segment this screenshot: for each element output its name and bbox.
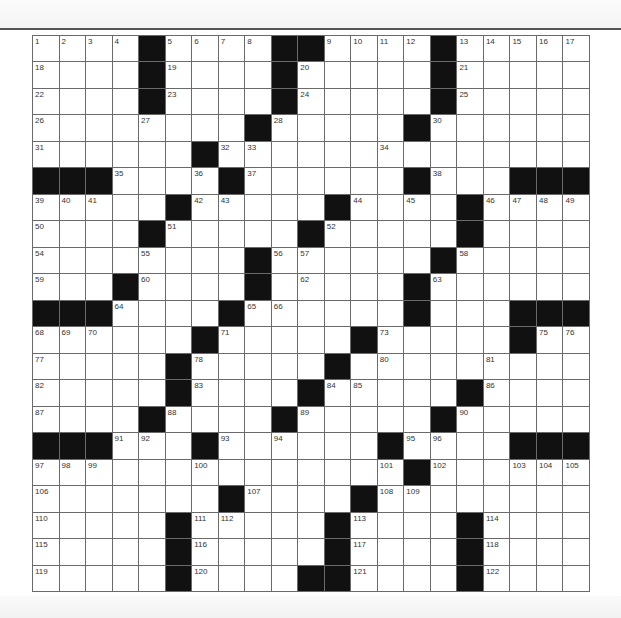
grid-cell[interactable] <box>563 566 589 591</box>
grid-cell[interactable]: 85 <box>351 380 377 405</box>
grid-cell[interactable] <box>245 195 271 220</box>
grid-cell[interactable] <box>484 460 510 485</box>
grid-cell[interactable]: 17 <box>563 36 589 61</box>
grid-cell[interactable] <box>351 301 377 326</box>
grid-cell[interactable] <box>60 566 86 591</box>
grid-cell[interactable] <box>219 274 245 299</box>
grid-cell[interactable] <box>139 354 165 379</box>
grid-cell[interactable] <box>510 248 536 273</box>
grid-cell[interactable]: 66 <box>272 301 298 326</box>
grid-cell[interactable]: 14 <box>484 36 510 61</box>
grid-cell[interactable] <box>378 62 404 87</box>
grid-cell[interactable] <box>298 327 324 352</box>
grid-cell[interactable]: 30 <box>431 115 457 140</box>
grid-cell[interactable] <box>510 486 536 511</box>
grid-cell[interactable] <box>431 486 457 511</box>
grid-cell[interactable]: 107 <box>245 486 271 511</box>
grid-cell[interactable]: 32 <box>219 142 245 167</box>
grid-cell[interactable]: 97 <box>33 460 59 485</box>
grid-cell[interactable] <box>245 433 271 458</box>
grid-cell[interactable] <box>510 142 536 167</box>
grid-cell[interactable]: 2 <box>60 36 86 61</box>
grid-cell[interactable] <box>113 115 139 140</box>
grid-cell[interactable]: 20 <box>298 62 324 87</box>
grid-cell[interactable] <box>272 327 298 352</box>
grid-cell[interactable] <box>113 248 139 273</box>
grid-cell[interactable] <box>351 248 377 273</box>
grid-cell[interactable] <box>563 407 589 432</box>
grid-cell[interactable] <box>272 274 298 299</box>
grid-cell[interactable]: 89 <box>298 407 324 432</box>
grid-cell[interactable] <box>351 89 377 114</box>
grid-cell[interactable] <box>60 115 86 140</box>
grid-cell[interactable]: 34 <box>378 142 404 167</box>
grid-cell[interactable] <box>457 274 483 299</box>
grid-cell[interactable] <box>351 142 377 167</box>
grid-cell[interactable] <box>60 221 86 246</box>
grid-cell[interactable] <box>484 142 510 167</box>
grid-cell[interactable] <box>537 380 563 405</box>
grid-cell[interactable] <box>431 566 457 591</box>
grid-cell[interactable] <box>139 142 165 167</box>
grid-cell[interactable]: 122 <box>484 566 510 591</box>
grid-cell[interactable]: 96 <box>431 433 457 458</box>
grid-cell[interactable]: 112 <box>219 513 245 538</box>
grid-cell[interactable]: 104 <box>537 460 563 485</box>
grid-cell[interactable]: 37 <box>245 168 271 193</box>
grid-cell[interactable] <box>86 248 112 273</box>
grid-cell[interactable] <box>86 407 112 432</box>
grid-cell[interactable]: 70 <box>86 327 112 352</box>
grid-cell[interactable]: 83 <box>192 380 218 405</box>
grid-cell[interactable] <box>537 539 563 564</box>
grid-cell[interactable] <box>219 115 245 140</box>
grid-cell[interactable]: 103 <box>510 460 536 485</box>
grid-cell[interactable] <box>563 380 589 405</box>
grid-cell[interactable] <box>351 168 377 193</box>
grid-cell[interactable]: 94 <box>272 433 298 458</box>
grid-cell[interactable] <box>272 142 298 167</box>
grid-cell[interactable] <box>272 380 298 405</box>
grid-cell[interactable]: 3 <box>86 36 112 61</box>
grid-cell[interactable] <box>325 142 351 167</box>
grid-cell[interactable] <box>272 513 298 538</box>
grid-cell[interactable]: 121 <box>351 566 377 591</box>
grid-cell[interactable] <box>563 274 589 299</box>
grid-cell[interactable]: 109 <box>404 486 430 511</box>
grid-cell[interactable] <box>86 142 112 167</box>
grid-cell[interactable] <box>351 407 377 432</box>
grid-cell[interactable]: 118 <box>484 539 510 564</box>
grid-cell[interactable] <box>86 62 112 87</box>
grid-cell[interactable] <box>298 513 324 538</box>
grid-cell[interactable] <box>219 89 245 114</box>
grid-cell[interactable]: 76 <box>563 327 589 352</box>
grid-cell[interactable]: 24 <box>298 89 324 114</box>
grid-cell[interactable] <box>139 566 165 591</box>
grid-cell[interactable] <box>378 407 404 432</box>
grid-cell[interactable] <box>166 115 192 140</box>
grid-cell[interactable] <box>139 380 165 405</box>
grid-cell[interactable] <box>298 301 324 326</box>
grid-cell[interactable] <box>510 539 536 564</box>
grid-cell[interactable]: 93 <box>219 433 245 458</box>
grid-cell[interactable] <box>457 460 483 485</box>
grid-cell[interactable]: 81 <box>484 354 510 379</box>
grid-cell[interactable] <box>60 380 86 405</box>
grid-cell[interactable]: 38 <box>431 168 457 193</box>
grid-cell[interactable] <box>245 327 271 352</box>
grid-cell[interactable] <box>113 407 139 432</box>
grid-cell[interactable] <box>113 327 139 352</box>
grid-cell[interactable] <box>404 380 430 405</box>
grid-cell[interactable] <box>272 168 298 193</box>
grid-cell[interactable] <box>219 407 245 432</box>
grid-cell[interactable] <box>60 274 86 299</box>
grid-cell[interactable] <box>457 486 483 511</box>
grid-cell[interactable]: 56 <box>272 248 298 273</box>
grid-cell[interactable] <box>325 433 351 458</box>
grid-cell[interactable] <box>378 195 404 220</box>
grid-cell[interactable] <box>192 274 218 299</box>
grid-cell[interactable] <box>113 221 139 246</box>
grid-cell[interactable] <box>219 380 245 405</box>
grid-cell[interactable] <box>325 62 351 87</box>
grid-cell[interactable] <box>351 274 377 299</box>
grid-cell[interactable] <box>192 115 218 140</box>
